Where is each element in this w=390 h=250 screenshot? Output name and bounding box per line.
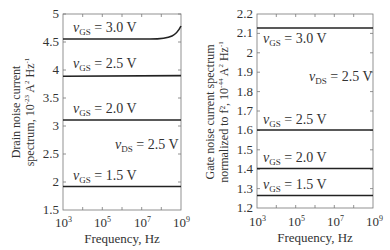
y-tick-label: 2	[53, 174, 60, 189]
x-tick-label: 103	[55, 215, 72, 230]
y-tick-label: 1.2	[237, 200, 253, 215]
y-tick-label: 4.5	[43, 34, 59, 49]
svg-text:Drain noise current: Drain noise current	[9, 65, 23, 158]
right-y-tick-labels: 2.2 2.1 2 1.9 1.8 1.7 1.6 1.5 1.4 1.3 1.…	[237, 6, 254, 215]
y-tick-label: 2.2	[237, 6, 253, 21]
label-vgs-2.0: vGS = 2.0 V	[73, 101, 137, 118]
left-y-tick-labels: 5 4.5 4 3.5 3 2.5 2 1.5	[43, 6, 60, 217]
y-tick-label: 5	[53, 6, 60, 21]
y-tick-label: 2	[247, 45, 254, 60]
y-tick-label: 4	[53, 62, 60, 77]
y-tick-label: 1.9	[237, 64, 253, 79]
label-vgs-1.5: vGS = 1.5 V	[263, 177, 327, 194]
x-tick-label: 107	[327, 214, 344, 229]
left-y-axis-label: Drain noise current spectrum, 10-23 A2 H…	[9, 57, 37, 166]
y-tick-label: 1.3	[237, 181, 253, 196]
y-tick-label: 3	[53, 118, 60, 133]
label-vds: vDS = 2.5 V	[309, 69, 373, 86]
y-tick-label: 3.5	[43, 90, 59, 105]
figure: 5 4.5 4 3.5 3 2.5 2 1.5 103 105 107 109 …	[0, 0, 390, 250]
y-tick-label: 1.5	[237, 142, 253, 157]
svg-text:normalized to f², 10-44 A2 Hz-: normalized to f², 10-44 A2 Hz-1	[217, 41, 231, 183]
x-tick-label: 105	[288, 214, 305, 229]
x-tick-label: 105	[94, 215, 111, 230]
label-vgs-2.5: vGS = 2.5 V	[263, 112, 327, 129]
label-vgs-2.0: vGS = 2.0 V	[263, 150, 327, 167]
y-tick-label: 1.4	[237, 161, 254, 176]
series-vgs-2.5	[63, 76, 181, 77]
label-vgs-2.5: vGS = 2.5 V	[73, 56, 137, 73]
x-tick-label: 103	[249, 214, 266, 229]
left-chart: 5 4.5 4 3.5 3 2.5 2 1.5 103 105 107 109 …	[9, 6, 190, 246]
x-tick-label: 109	[366, 214, 383, 229]
right-y-axis-label: Gate noise current spectrum normalized t…	[203, 41, 231, 183]
label-vds: vDS = 2.5 V	[115, 137, 179, 154]
svg-text:spectrum, 10-23 A2 Hz-1: spectrum, 10-23 A2 Hz-1	[23, 57, 37, 166]
y-tick-label: 1.7	[237, 103, 254, 118]
right-x-tick-labels: 103 105 107 109	[249, 214, 383, 229]
left-annotations: vGS = 3.0 V vGS = 2.5 V vGS = 2.0 V vDS …	[73, 20, 179, 185]
left-x-axis-label: Frequency, Hz	[84, 231, 160, 246]
right-chart: 2.2 2.1 2 1.9 1.8 1.7 1.6 1.5 1.4 1.3 1.…	[203, 6, 383, 245]
right-annotations: vGS = 3.0 V vDS = 2.5 V vGS = 2.5 V vGS …	[263, 31, 373, 194]
y-tick-label: 1.6	[237, 122, 254, 137]
label-vgs-3.0: vGS = 3.0 V	[263, 31, 327, 48]
y-tick-label: 2.1	[237, 25, 253, 40]
right-x-axis-label: Frequency, Hz	[277, 230, 353, 245]
x-tick-label: 109	[173, 215, 190, 230]
x-tick-label: 107	[134, 215, 151, 230]
y-tick-label: 1.8	[237, 84, 253, 99]
label-vgs-1.5: vGS = 1.5 V	[73, 168, 137, 185]
y-tick-label: 2.5	[43, 146, 59, 161]
label-vgs-3.0: vGS = 3.0 V	[73, 20, 137, 37]
left-x-tick-labels: 103 105 107 109	[55, 215, 190, 230]
svg-text:Gate noise current spectrum: Gate noise current spectrum	[203, 44, 217, 180]
